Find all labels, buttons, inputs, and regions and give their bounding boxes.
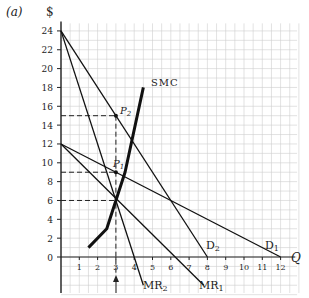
p2-label: P2 xyxy=(119,105,132,118)
svg-text:4: 4 xyxy=(47,215,53,225)
svg-text:20: 20 xyxy=(42,64,54,74)
economics-chart: 024681012141618202224123456789101112 (a)… xyxy=(0,0,309,298)
svg-text:0: 0 xyxy=(47,253,53,263)
tick-labels: 024681012141618202224123456789101112 xyxy=(42,26,286,272)
svg-text:9: 9 xyxy=(223,263,228,272)
smc-label: SMC xyxy=(151,77,179,88)
svg-text:18: 18 xyxy=(42,83,54,93)
svg-text:16: 16 xyxy=(42,102,54,112)
grid xyxy=(61,23,299,294)
axes xyxy=(61,22,295,294)
d2-label: D2 xyxy=(206,239,220,253)
svg-text:14: 14 xyxy=(42,121,54,131)
svg-text:11: 11 xyxy=(257,263,267,272)
x-axis-label: Q xyxy=(291,251,301,265)
mr2-curve xyxy=(61,31,143,285)
svg-text:5: 5 xyxy=(150,263,155,272)
svg-text:6: 6 xyxy=(47,196,53,206)
svg-text:10: 10 xyxy=(239,263,249,272)
mr1-label: MR1 xyxy=(199,279,224,293)
svg-text:1: 1 xyxy=(77,263,82,272)
panel-label: (a) xyxy=(6,5,23,19)
svg-text:12: 12 xyxy=(276,263,286,272)
p1-label: P1 xyxy=(112,158,124,171)
svg-text:8: 8 xyxy=(47,177,53,187)
svg-text:24: 24 xyxy=(42,26,54,36)
svg-text:10: 10 xyxy=(42,158,54,168)
d1-label: D1 xyxy=(265,239,279,253)
svg-text:22: 22 xyxy=(42,45,53,55)
arrow-icon xyxy=(113,275,119,293)
mr2-label: MR2 xyxy=(143,279,168,293)
svg-text:2: 2 xyxy=(95,263,100,272)
svg-text:8: 8 xyxy=(205,263,210,272)
y-axis-label: $ xyxy=(46,5,54,19)
svg-text:6: 6 xyxy=(168,263,173,272)
svg-text:12: 12 xyxy=(42,139,53,149)
svg-text:2: 2 xyxy=(47,234,53,244)
